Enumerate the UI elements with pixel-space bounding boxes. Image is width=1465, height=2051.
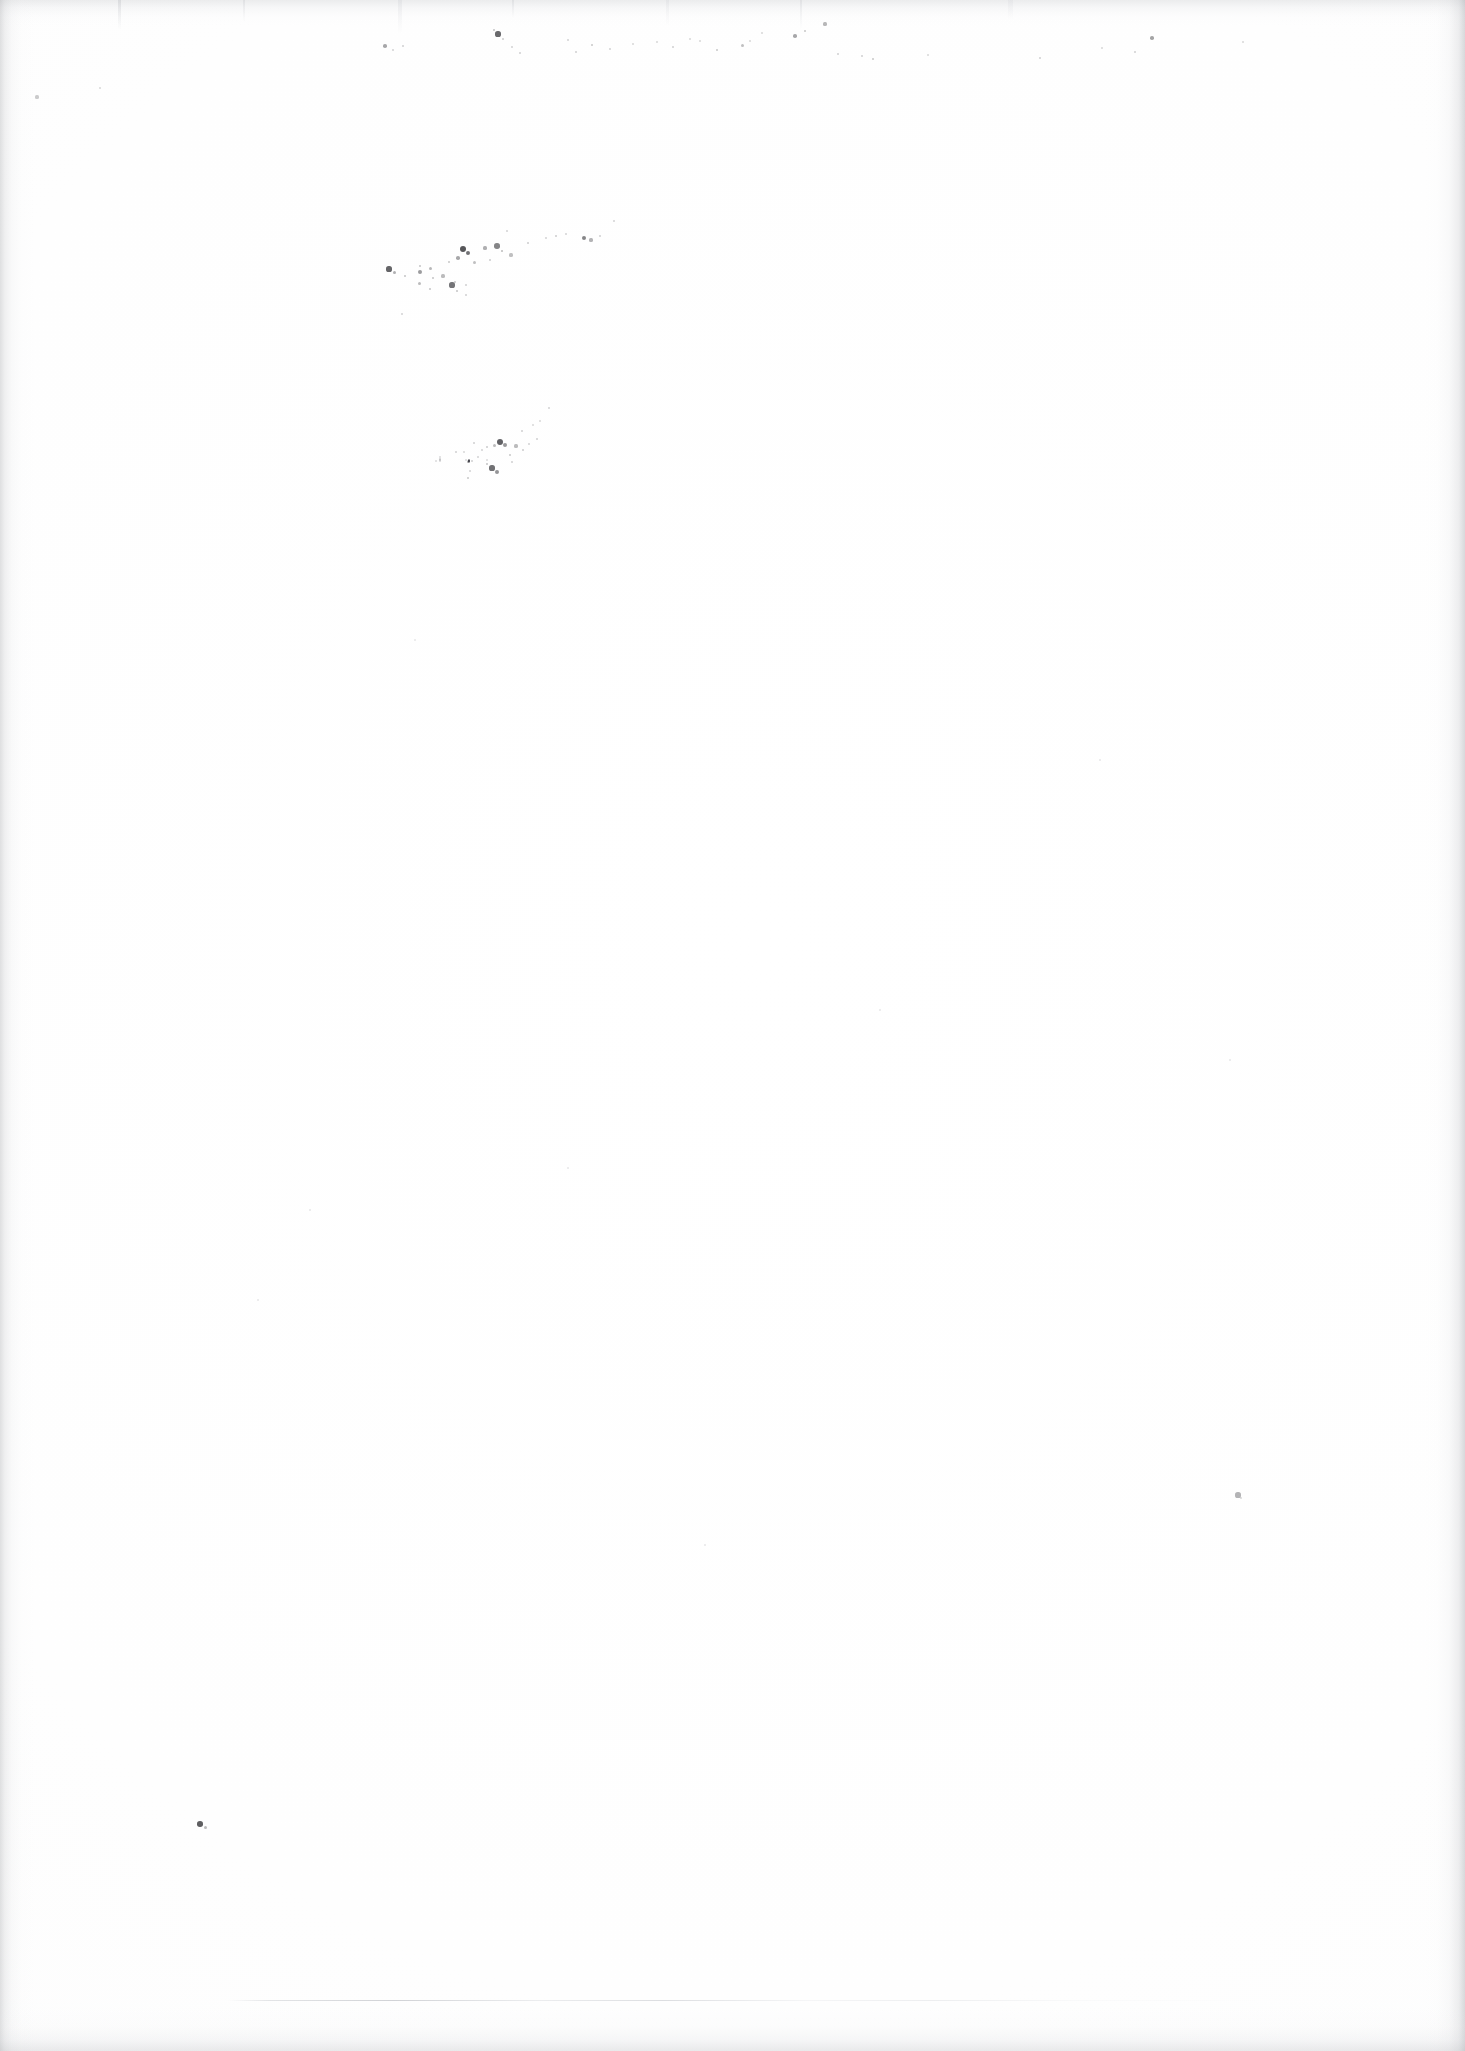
dust-speck [741,44,744,47]
dust-speck [761,32,763,34]
dust-speck [519,52,522,55]
dust-speck [861,55,864,58]
dust-speck [1101,47,1103,49]
dust-speck [567,39,569,41]
dust-speck [1150,36,1154,40]
faint-horizontal-rule [228,2000,1263,2001]
dust-speck [35,95,38,98]
dust-speck [1242,41,1244,43]
scanned-page [0,0,1465,2051]
dust-speck [793,34,797,38]
dust-speck [591,44,594,47]
dust-speck [1039,57,1042,60]
dust-speck [495,31,500,36]
dust-speck [689,38,691,40]
dust-speck [656,41,658,43]
dust-speck [823,22,826,25]
dust-speck [493,29,496,32]
dust-speck [749,40,751,42]
dust-speck [872,58,875,61]
dust-speck [392,49,394,51]
dust-speck [1134,51,1137,54]
dust-speck [837,53,840,56]
dust-speck [511,46,513,48]
dust-speck [804,30,807,33]
dust-speck [609,48,611,50]
dust-speck [99,87,102,90]
dust-speck [927,54,929,56]
dust-speck [575,51,578,54]
dust-speck [502,38,505,41]
dust-speck [672,46,675,49]
dust-speck [402,45,405,48]
page-text-content [150,170,1310,1870]
dust-speck [383,44,387,48]
dust-speck [699,40,701,42]
dust-speck [632,43,634,45]
dust-speck [716,49,719,52]
